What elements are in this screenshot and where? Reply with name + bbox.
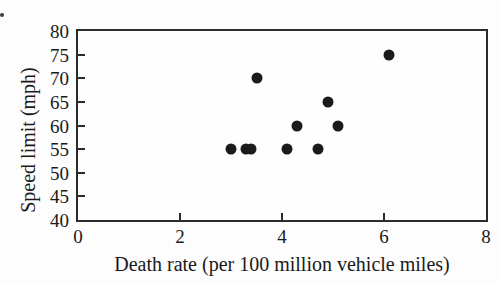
y-axis-tick-label: 75 <box>30 45 69 64</box>
data-point <box>226 144 237 155</box>
textbook-scatter-figure: Speed limit (mph) Death rate (per 100 mi… <box>0 0 498 283</box>
data-point <box>333 120 344 131</box>
x-axis-tick-label: 2 <box>175 227 185 246</box>
x-axis-tick-mark <box>281 213 283 220</box>
y-axis-tick-label: 45 <box>30 187 69 206</box>
y-axis-tick-mark <box>78 77 85 79</box>
x-axis-tick-label: 8 <box>481 227 491 246</box>
data-point <box>384 49 395 60</box>
y-axis-tick-label: 40 <box>30 211 69 230</box>
plot-area <box>76 29 488 222</box>
y-axis-tick-label: 50 <box>30 163 69 182</box>
cropped-exercise-period-mark <box>0 13 4 17</box>
x-axis-label: Death rate (per 100 million vehicle mile… <box>76 253 488 275</box>
data-point <box>312 144 323 155</box>
y-axis-tick-mark <box>78 148 85 150</box>
y-axis-tick-label: 80 <box>30 22 69 41</box>
x-axis-tick-mark <box>179 213 181 220</box>
x-axis-tick-mark <box>383 213 385 220</box>
data-point <box>251 73 262 84</box>
y-axis-tick-mark <box>78 172 85 174</box>
x-axis-tick-label: 0 <box>73 227 83 246</box>
data-point <box>246 144 257 155</box>
y-axis-tick-label: 65 <box>30 92 69 111</box>
x-axis-tick-label: 6 <box>379 227 389 246</box>
y-axis-tick-mark <box>78 101 85 103</box>
y-axis-tick-label: 55 <box>30 140 69 159</box>
y-axis-tick-mark <box>78 54 85 56</box>
data-point <box>282 144 293 155</box>
data-point <box>292 120 303 131</box>
x-axis-tick-label: 4 <box>277 227 287 246</box>
y-axis-tick-mark <box>78 125 85 127</box>
y-axis-tick-mark <box>78 195 85 197</box>
y-axis-tick-label: 70 <box>30 69 69 88</box>
data-point <box>322 96 333 107</box>
y-axis-tick-label: 60 <box>30 116 69 135</box>
